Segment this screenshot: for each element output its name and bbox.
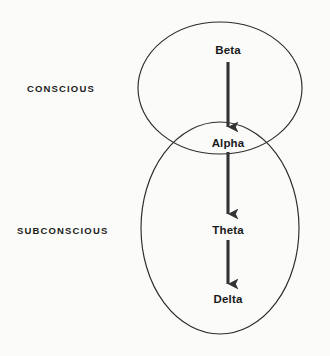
wave-label-alpha: Alpha [212, 137, 245, 149]
ellipse-conscious [138, 22, 302, 154]
wave-label-theta: Theta [212, 224, 243, 236]
region-label-subconscious: SUBCONSCIOUS [17, 225, 108, 236]
wave-label-delta: Delta [214, 293, 243, 305]
venn-diagram-canvas [0, 0, 330, 356]
brainwave-venn-diagram: CONSCIOUS SUBCONSCIOUS Beta Alpha Theta … [0, 0, 330, 356]
wave-label-beta: Beta [215, 44, 241, 56]
region-label-conscious: CONSCIOUS [27, 83, 95, 94]
